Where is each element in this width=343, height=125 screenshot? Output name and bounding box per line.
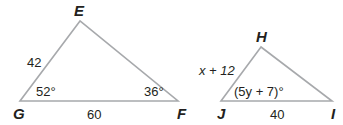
diagram-canvas: E G F 42 60 52° 36° H J I x + 12 40 (5y … xyxy=(0,0,343,125)
similar-triangles-diagram: E G F 42 60 52° 36° H J I x + 12 40 (5y … xyxy=(0,0,343,125)
vertex-label-f: F xyxy=(177,105,187,122)
vertex-label-e: E xyxy=(74,2,85,19)
side-label-gf: 60 xyxy=(87,107,101,122)
vertex-label-h: H xyxy=(256,28,268,45)
vertex-label-j: J xyxy=(217,105,226,122)
side-label-eg: 42 xyxy=(27,55,41,70)
angle-label-g: 52° xyxy=(36,84,56,99)
angle-label-j: (5y + 7)° xyxy=(234,84,284,99)
angle-label-f: 36° xyxy=(144,84,164,99)
vertex-label-i: I xyxy=(331,105,336,122)
vertex-label-g: G xyxy=(13,105,25,122)
side-label-ji: 40 xyxy=(270,107,284,122)
side-label-hj: x + 12 xyxy=(198,63,236,78)
